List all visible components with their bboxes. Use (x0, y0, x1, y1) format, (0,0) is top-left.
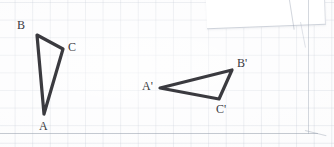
vertex-label-b: B (17, 19, 25, 31)
vertex-label-b-prime: B' (237, 57, 247, 69)
vertex-label-a-prime: A' (142, 80, 153, 92)
vertex-label-c: C (68, 41, 76, 53)
triangle-abc-outline (37, 35, 63, 114)
ink-drawing-layer (0, 0, 334, 147)
scanned-worksheet: A B C A' B' C' (0, 0, 334, 147)
triangle-a-prime-b-prime-c-prime-outline (160, 70, 232, 99)
vertex-label-c-prime: C' (216, 103, 226, 115)
vertex-label-a: A (39, 120, 48, 132)
